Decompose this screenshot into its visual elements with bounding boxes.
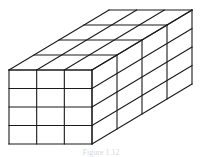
figure-caption: Figure 1.12 xyxy=(0,148,202,157)
cube-prism-diagram xyxy=(0,0,202,157)
front-face-grid xyxy=(9,70,92,144)
top-face-grid xyxy=(9,10,192,70)
side-face-grid xyxy=(92,10,192,144)
